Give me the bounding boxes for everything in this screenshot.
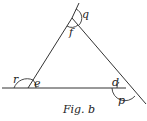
right-side [72, 18, 146, 104]
label-q: q [82, 8, 89, 21]
figure-caption: Fig. b [62, 103, 95, 116]
label-d: d [112, 76, 119, 89]
label-f: f [68, 26, 75, 39]
label-p: p [118, 94, 125, 107]
label-r: r [13, 73, 19, 86]
triangle-diagram: q f r e d p Fig. b [0, 0, 147, 121]
label-e: e [34, 77, 41, 90]
angle-q-arc [76, 9, 82, 25]
